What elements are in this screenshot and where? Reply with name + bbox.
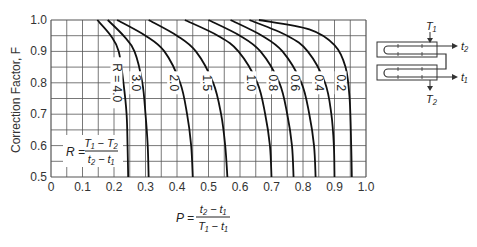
curve-label: 1.5	[200, 74, 214, 91]
y-axis-label: Correction Factor, F	[9, 47, 23, 153]
curve-label: 0.4	[312, 74, 326, 91]
x-tick-label: 0.5	[200, 180, 217, 194]
p-formula-lhs: P =	[176, 211, 194, 225]
upper-shell-pass	[377, 42, 437, 57]
x-tick-label: 0	[48, 180, 55, 194]
y-tick-label: 1.0	[30, 13, 47, 27]
curve-label: 2.0	[167, 74, 181, 91]
curve-label: 0.8	[266, 74, 280, 91]
p-formula-numerator: t₂ − t₁	[200, 203, 227, 215]
r-formula-lhs: R =	[66, 145, 85, 159]
t1-arrow-icon	[452, 74, 458, 80]
x-tick-label: 0.2	[106, 180, 123, 194]
schematic-T2-label: T₂	[426, 93, 438, 105]
T2-arrow-icon	[427, 86, 433, 91]
y-tick-label: 0.8	[30, 76, 47, 90]
x-tick-label: 0.8	[295, 180, 312, 194]
r-formula-denominator: t₂ − t₁	[88, 153, 115, 165]
x-tick-label: 0.4	[169, 180, 186, 194]
schematic-T1-label: T₁	[426, 20, 437, 32]
t2-arrow-icon	[452, 43, 458, 49]
x-tick-label: 0.7	[263, 180, 280, 194]
schematic-t2-label: t₂	[461, 40, 469, 52]
curve-label: 3.0	[129, 74, 143, 91]
y-tick-label: 0.7	[30, 107, 47, 121]
lower-shell-pass	[377, 65, 437, 80]
curve-label: R = 4.0	[110, 63, 124, 102]
correction-factor-chart: R = 4.03.02.01.51.00.80.60.40.2 00.10.20…	[0, 0, 477, 247]
y-tick-label: 0.9	[30, 44, 47, 58]
x-tick-label: 1.0	[358, 180, 375, 194]
curve-label: 1.0	[244, 74, 258, 91]
heat-exchanger-schematic	[377, 32, 458, 91]
p-formula: P = t₂ − t₁ T₁ − t₁	[176, 203, 230, 232]
curve-label: 0.6	[288, 74, 302, 91]
x-tick-label: 0.3	[137, 180, 154, 194]
y-tick-label: 0.5	[30, 170, 47, 184]
r-formula-numerator: T₁ − T₂	[84, 137, 118, 149]
y-tick-label: 0.6	[30, 139, 47, 153]
x-tick-label: 0.9	[326, 180, 343, 194]
x-tick-label: 0.1	[74, 180, 91, 194]
schematic-t1-label: t₁	[461, 71, 468, 83]
curve-label: 0.2	[334, 74, 348, 91]
x-tick-label: 0.6	[232, 180, 249, 194]
r-formula: R = T₁ − T₂ t₂ − t₁	[63, 135, 123, 167]
p-formula-denominator: T₁ − t₁	[198, 220, 228, 232]
